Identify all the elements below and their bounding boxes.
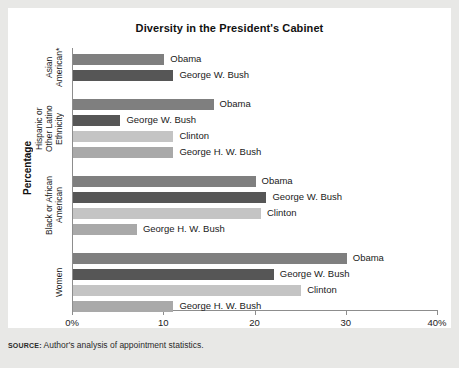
y-axis-title: Percentage (22, 8, 33, 328)
bar-row: Clinton (73, 285, 438, 296)
bar-value-label: George W. Bush (272, 191, 342, 202)
bar-row: Obama (73, 176, 438, 187)
bar-row: Obama (73, 253, 438, 264)
bar-value-label: Clinton (267, 207, 297, 218)
x-tick-label: 40% (427, 317, 446, 328)
y-axis-title-text: Percentage (22, 141, 33, 195)
chart-figure-panel: Diversity in the President's Cabinet Per… (8, 8, 451, 328)
bar (73, 99, 214, 110)
bar-value-label: George H. W. Bush (179, 146, 261, 157)
bar-row: George W. Bush (73, 70, 438, 81)
bar (73, 54, 164, 65)
bar (73, 253, 347, 264)
bar (73, 192, 266, 203)
bar-row: Clinton (73, 131, 438, 142)
bar (73, 147, 173, 158)
source-note: SOURCE: Author's analysis of appointment… (8, 340, 204, 350)
bar-value-label: George H. W. Bush (143, 223, 225, 234)
bar-row: George H. W. Bush (73, 301, 438, 312)
bar-row: George H. W. Bush (73, 147, 438, 158)
bar-value-label: Obama (220, 98, 251, 109)
plot-area: 0%10203040% ObamaGeorge W. BushObamaGeor… (72, 48, 437, 310)
bar-value-label: George W. Bush (280, 268, 350, 279)
bar (73, 269, 274, 280)
group-label: Women (54, 253, 64, 312)
bar-value-label: George W. Bush (179, 69, 249, 80)
bar-value-label: Obama (262, 175, 293, 186)
x-tick-label: 30 (340, 317, 351, 328)
bar (73, 301, 173, 312)
bar (73, 224, 137, 235)
bar-row: Clinton (73, 208, 438, 219)
bar-row: George W. Bush (73, 192, 438, 203)
bar-value-label: Obama (170, 53, 201, 64)
bar (73, 285, 301, 296)
group-label: Black or African American (44, 176, 64, 235)
bar-row: George W. Bush (73, 115, 438, 126)
x-tick-label: 20 (249, 317, 260, 328)
bar-row: Obama (73, 54, 438, 65)
bar-row: George H. W. Bush (73, 224, 438, 235)
bar (73, 115, 120, 126)
group-label: Asian American* (44, 54, 64, 81)
source-keyword: SOURCE: (8, 342, 42, 349)
chart-title: Diversity in the President's Cabinet (8, 22, 451, 34)
bar-row: George W. Bush (73, 269, 438, 280)
bar-row: Obama (73, 99, 438, 110)
x-tick-label: 0% (65, 317, 79, 328)
bar-value-label: Obama (353, 252, 384, 263)
x-tick-label: 10 (158, 317, 169, 328)
source-text: Author's analysis of appointment statist… (44, 340, 204, 350)
bar (73, 176, 256, 187)
bar-value-label: George H. W. Bush (179, 300, 261, 311)
bar (73, 208, 261, 219)
bar-value-label: Clinton (307, 284, 337, 295)
group-label: Hispanic or Other Latino Ethnicity (34, 99, 64, 158)
bar-value-label: Clinton (179, 130, 209, 141)
bar (73, 70, 173, 81)
bar-value-label: George W. Bush (126, 114, 196, 125)
bar (73, 131, 173, 142)
